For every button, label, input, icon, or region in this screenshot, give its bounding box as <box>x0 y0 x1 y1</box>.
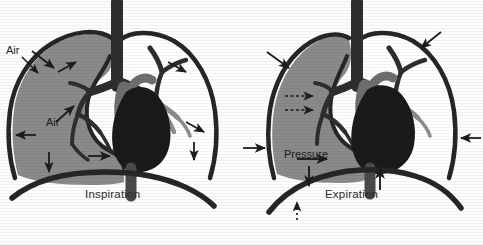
label-air-upper: Air <box>6 44 19 56</box>
label-pressure: Pressure <box>284 148 328 160</box>
aortic-arch-inspiration <box>132 78 152 86</box>
arrow-chest-wall-recoil-upper-left <box>267 52 289 68</box>
expiration-illustration <box>241 0 483 245</box>
arrow-chest-wall-recoil-upper-right <box>421 32 441 48</box>
inspiration-illustration <box>0 0 242 245</box>
panel-inspiration <box>0 0 242 245</box>
caption-inspiration: Inspiration <box>85 188 140 200</box>
lung-shaded-inspiration <box>13 34 124 185</box>
lung-mechanics-figure: Air Air Pressure Inspiration Expiration <box>0 0 483 245</box>
panel-expiration <box>241 0 483 245</box>
label-air-lower: Air <box>46 116 59 128</box>
aortic-arch-expiration <box>373 76 393 84</box>
caption-expiration: Expiration <box>325 188 378 200</box>
